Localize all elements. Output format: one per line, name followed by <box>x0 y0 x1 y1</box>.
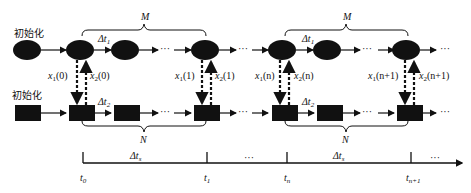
tick-tn1: tn+1 <box>406 173 421 186</box>
square-node <box>317 105 343 121</box>
brace-n-1 <box>82 121 206 132</box>
ellipsis-bottom-3: ··· <box>362 107 372 117</box>
dt1-label-2: Δt1 <box>302 34 314 47</box>
x1-n1-label: x1(n+1) <box>368 71 398 84</box>
dts-label: Δts <box>130 151 141 164</box>
top-row <box>13 40 436 60</box>
ellipsis-top-3: ··· <box>362 44 372 54</box>
ellipsis-top-2: ··· <box>238 44 248 54</box>
ellipse-node <box>111 40 139 60</box>
ellipsis-bottom-2: ··· <box>238 107 248 117</box>
exchange-arrows <box>77 60 414 105</box>
timeline-ellipsis-2: ··· <box>430 153 440 163</box>
timeline-ellipsis-1: ··· <box>244 153 254 163</box>
brace-m-label-2: M <box>343 12 351 22</box>
bottom-row <box>15 105 436 121</box>
brace-n-label: N <box>140 135 147 145</box>
x2-n-label: x2(n) <box>294 71 314 84</box>
x2-n1-label: x2(n+1) <box>419 71 449 84</box>
square-node <box>194 105 220 121</box>
ellipse-node <box>66 40 94 60</box>
tick-tn: tn <box>284 173 290 186</box>
ellipse-node <box>191 40 219 60</box>
brace-m-label: M <box>141 12 149 22</box>
brace-n-label-2: N <box>342 135 349 145</box>
ellipsis-bottom-4: ··· <box>440 107 450 117</box>
square-node <box>69 105 95 121</box>
ellipsis-top-1: ··· <box>160 44 170 54</box>
dt2-label-2: Δt2 <box>302 97 314 110</box>
x2-1-label: x2(1) <box>215 71 235 84</box>
x1-1-label: x1(1) <box>175 71 195 84</box>
top-init-label: 初始化 <box>14 29 44 39</box>
x2-0-label: x2(0) <box>90 71 110 84</box>
brace-n-2 <box>285 121 408 132</box>
tick-t0: t0 <box>80 173 86 186</box>
ellipsis-top-4: ··· <box>440 44 450 54</box>
co-simulation-diagram <box>0 0 471 193</box>
square-node <box>114 105 140 121</box>
ellipse-node <box>268 40 296 60</box>
square-node <box>397 105 423 121</box>
bottom-init-label: 初始化 <box>12 91 42 101</box>
dt1-label: Δt1 <box>98 34 110 47</box>
dt2-label: Δt2 <box>98 97 110 110</box>
tick-t1: t1 <box>204 173 210 186</box>
ellipse-node <box>392 40 420 60</box>
ellipsis-bottom-1: ··· <box>160 107 170 117</box>
x1-0-label: x1(0) <box>48 71 68 84</box>
square-node <box>272 105 298 121</box>
square-init <box>15 105 41 121</box>
dts-label-2: Δts <box>333 151 344 164</box>
x1-n-label: x1(n) <box>255 71 275 84</box>
ellipse-init <box>13 40 41 60</box>
ellipse-node <box>313 40 341 60</box>
